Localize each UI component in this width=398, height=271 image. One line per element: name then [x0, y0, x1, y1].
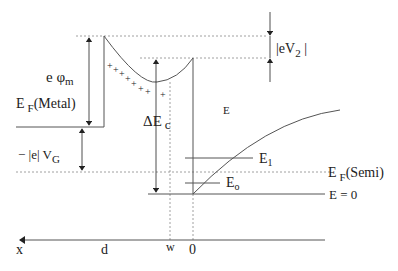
ef-semi-label: EF(Semi) [328, 165, 384, 183]
e-zero-label: E = 0 [329, 187, 357, 202]
axis-w-label: w [166, 240, 175, 254]
charge-plus: + [131, 78, 137, 89]
ev2-label: |eV2 | [276, 41, 307, 59]
axis-0-label: 0 [189, 242, 196, 257]
charge-plus: + [160, 89, 166, 100]
axis-x-label: x [16, 242, 23, 257]
band-diagram: + + + + + + + + e φm EF(Metal) ΔEc |eV2 … [0, 0, 398, 271]
e-phi-m-label: e φm [46, 69, 74, 87]
eo-label: Eo [226, 175, 240, 192]
charge-plus: + [138, 83, 144, 94]
vg-label: − |e| VG [18, 147, 60, 165]
e-label: E [223, 104, 230, 116]
e1-label: E1 [259, 151, 273, 168]
axis-d-label: d [101, 242, 108, 257]
ef-metal-label: EF(Metal) [16, 96, 76, 114]
barrier-curve [104, 36, 193, 82]
charge-plus: + [145, 86, 151, 97]
delta-ec-label: ΔEc [143, 113, 171, 132]
